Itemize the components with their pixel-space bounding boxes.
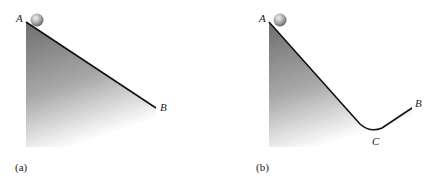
caption-a: (a) [15, 161, 28, 174]
figure-b: A C B (b) [256, 12, 422, 174]
diagram-canvas: A B (a) A C B (b) [0, 0, 436, 180]
label-a-start: A [15, 12, 23, 24]
caption-b: (b) [256, 161, 269, 174]
label-a-end: B [160, 101, 167, 113]
ball-icon [31, 14, 44, 27]
label-b-valley: C [372, 135, 380, 147]
label-b-end: B [415, 97, 422, 109]
ball-icon [274, 14, 287, 27]
label-b-start: A [258, 12, 266, 24]
valley-fill [269, 22, 412, 147]
incline-fill [26, 22, 156, 147]
figure-a: A B (a) [15, 12, 167, 174]
